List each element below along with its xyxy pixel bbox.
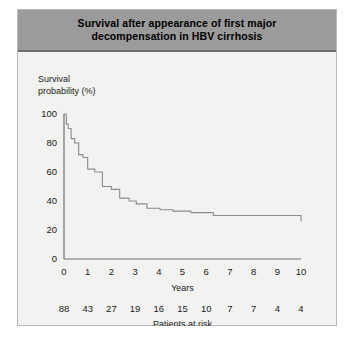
figure-title-line-2: decompensation in HBV cirrhosis — [91, 30, 262, 42]
figure-title-band: Survival after appearance of first major… — [18, 10, 336, 52]
risk-count: 27 — [106, 303, 117, 314]
risk-count: 19 — [130, 303, 141, 314]
x-tick-label: 10 — [296, 266, 307, 277]
figure-title: Survival after appearance of first major… — [60, 17, 295, 44]
risk-count: 10 — [201, 303, 212, 314]
x-tick-label: 1 — [85, 266, 90, 277]
risk-count: 4 — [298, 303, 303, 314]
x-tick-label: 2 — [109, 266, 114, 277]
plot-panel: Survival probability (%) 020406080100012… — [18, 54, 338, 326]
risk-count: 7 — [227, 303, 232, 314]
y-tick-label: 20 — [46, 224, 57, 235]
y-tick-label: 100 — [41, 108, 57, 119]
x-tick-label: 9 — [275, 266, 280, 277]
x-tick-label: 0 — [61, 266, 66, 277]
x-tick-label: 4 — [156, 266, 161, 277]
risk-count: 16 — [154, 303, 165, 314]
survival-curve — [64, 114, 301, 221]
figure-title-line-1: Survival after appearance of first major — [78, 17, 277, 29]
x-tick-label: 7 — [227, 266, 232, 277]
y-tick-label: 0 — [52, 253, 57, 264]
risk-table-caption: Patients at risk — [153, 319, 213, 326]
y-tick-label: 60 — [46, 166, 57, 177]
x-tick-label: 3 — [132, 266, 137, 277]
x-axis-title: Years — [171, 283, 194, 293]
figure-container: Survival after appearance of first major… — [17, 9, 337, 326]
y-tick-label: 80 — [46, 137, 57, 148]
risk-count: 7 — [251, 303, 256, 314]
x-tick-label: 6 — [204, 266, 209, 277]
x-tick-label: 5 — [180, 266, 185, 277]
survival-chart: 020406080100012345678910Years88432719161… — [18, 54, 338, 326]
risk-count: 4 — [275, 303, 280, 314]
risk-count: 15 — [177, 303, 188, 314]
y-tick-label: 40 — [46, 195, 57, 206]
x-tick-label: 8 — [251, 266, 256, 277]
risk-count: 88 — [59, 303, 70, 314]
risk-count: 43 — [82, 303, 93, 314]
